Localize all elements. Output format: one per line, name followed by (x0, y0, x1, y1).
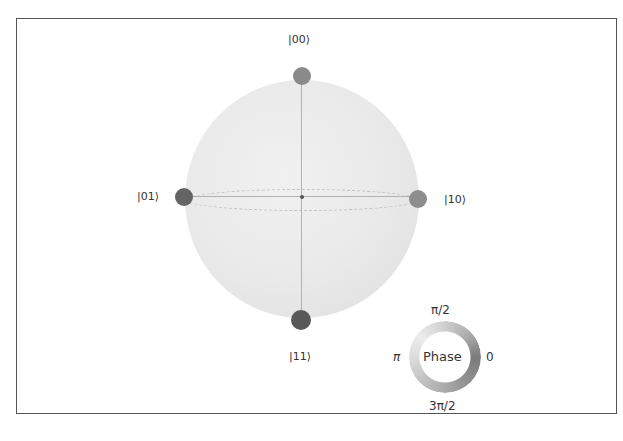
phase-legend-title: Phase (423, 349, 462, 364)
state-label-top: |00⟩ (288, 33, 310, 46)
vertical-axis-line (301, 76, 302, 322)
state-label-bottom: |11⟩ (289, 350, 311, 363)
state-label-right: |10⟩ (444, 193, 466, 206)
state-dot-top (293, 67, 311, 85)
phase-tick-pi: π (393, 350, 400, 364)
state-dot-bottom (291, 310, 311, 330)
state-dot-right (409, 190, 427, 208)
equator-ellipse (186, 189, 418, 211)
phase-tick-pi-over-2: π/2 (431, 303, 450, 317)
state-dot-left (175, 188, 193, 206)
phase-tick-3pi-over-2: 3π/2 (429, 399, 456, 413)
phase-tick-zero: 0 (486, 350, 494, 364)
state-label-left: |01⟩ (137, 190, 159, 203)
sphere-center-dot (300, 195, 304, 199)
